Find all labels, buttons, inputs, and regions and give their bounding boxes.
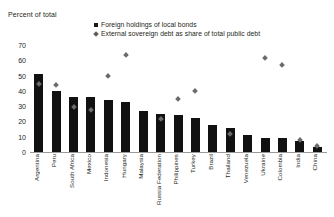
diamond-indonesia [106, 73, 111, 78]
x-label-hungary: Hungary [120, 154, 132, 178]
y-tick-30: 30 [2, 103, 26, 110]
chart-container: Percent of total Foreign holdings of loc… [0, 0, 334, 217]
y-axis-tick-labels: 706050403020100 [2, 0, 26, 217]
x-label-thailand: Thailand [224, 154, 236, 178]
bar-group [172, 45, 184, 152]
y-tick-10: 10 [2, 133, 26, 140]
x-label-russia-federation: Russia Federation [155, 154, 167, 205]
bar-group [311, 45, 323, 152]
diamond-peru [54, 82, 59, 87]
bar-china [313, 147, 322, 152]
bar-ukraine [261, 138, 270, 152]
bar-group [224, 45, 236, 152]
x-label-turkey: Turkey [189, 154, 201, 173]
y-tick-70: 70 [2, 42, 26, 49]
x-label-philippines: Philippines [172, 154, 184, 184]
bar-group [276, 45, 288, 152]
x-label-indonesia: Indonesia [102, 154, 114, 181]
chart-legend: Foreign holdings of local bonds External… [94, 20, 260, 38]
bar-peru [52, 91, 61, 152]
legend-item-external-debt: External sovereign debt as share of tota… [94, 29, 260, 38]
bar-hungary [121, 102, 130, 152]
bar-group [102, 45, 114, 152]
diamond-turkey [193, 88, 198, 93]
bar-group [33, 45, 45, 152]
bar-group [259, 45, 271, 152]
legend-label-external-debt: External sovereign debt as share of tota… [101, 30, 260, 37]
plot-area [30, 45, 326, 152]
bar-philippines [174, 115, 183, 152]
x-label-brazil: Brazil [207, 154, 219, 170]
bar-turkey [191, 118, 200, 152]
bar-indonesia [104, 100, 113, 152]
x-label-mexico: Mexico [85, 154, 97, 174]
bar-malaysia [139, 111, 148, 152]
bar-india [295, 141, 304, 152]
bar-group [189, 45, 201, 152]
bar-group [85, 45, 97, 152]
legend-label-foreign-holdings: Foreign holdings of local bonds [101, 21, 197, 28]
y-tick-20: 20 [2, 118, 26, 125]
x-label-colombia: Colombia [276, 154, 288, 181]
x-label-ukraine: Ukraine [259, 154, 271, 176]
legend-item-foreign-holdings: Foreign holdings of local bonds [94, 20, 260, 29]
bar-group [68, 45, 80, 152]
legend-diamond-marker-icon [93, 31, 99, 37]
bar-venezuela [243, 135, 252, 152]
x-axis-category-labels: ArgentinaPeruSouth AfricaMexicoIndonesia… [30, 154, 326, 216]
y-tick-50: 50 [2, 72, 26, 79]
diamond-hungary [123, 52, 128, 57]
x-label-venezuela: Venezuela [242, 154, 254, 183]
bar-group [137, 45, 149, 152]
legend-square-marker-icon [94, 23, 98, 27]
bar-group [242, 45, 254, 152]
diamond-philippines [175, 96, 180, 101]
x-label-peru: Peru [50, 154, 62, 167]
x-label-malaysia: Malaysia [137, 154, 149, 179]
diamond-colombia [280, 62, 285, 67]
bar-colombia [278, 138, 287, 152]
bar-group [120, 45, 132, 152]
x-label-china: China [311, 154, 323, 170]
x-label-south-africa: South Africa [68, 154, 80, 188]
x-label-argentina: Argentina [33, 154, 45, 181]
y-tick-60: 60 [2, 57, 26, 64]
bar-brazil [208, 125, 217, 153]
diamond-ukraine [263, 55, 268, 60]
bar-mexico [86, 97, 95, 152]
bar-group [207, 45, 219, 152]
y-tick-40: 40 [2, 87, 26, 94]
y-tick-0: 0 [2, 149, 26, 156]
x-label-india: India [294, 154, 306, 168]
bar-group [50, 45, 62, 152]
bar-group [294, 45, 306, 152]
bar-group [155, 45, 167, 152]
